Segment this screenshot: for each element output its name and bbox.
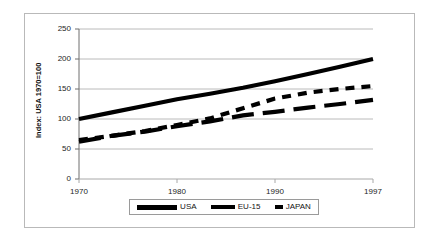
plot-area: 250 200 150 100 50 0 1970 1980 1990 1997 <box>25 14 414 227</box>
x-tick-label-1990: 1990 <box>255 188 295 196</box>
legend-label-usa: USA <box>180 203 196 211</box>
y-tick-marks <box>75 29 79 179</box>
y-tick-label-50: 50 <box>47 145 71 153</box>
x-tick-label-1970: 1970 <box>59 188 99 196</box>
legend-entry-japan[interactable]: JAPAN <box>275 203 311 211</box>
series-line-eu15 <box>79 100 373 142</box>
y-tick-label-200: 200 <box>47 55 71 63</box>
legend-label-eu15: EU-15 <box>238 203 261 211</box>
legend-swatch-usa-icon <box>137 205 177 210</box>
y-tick-label-0: 0 <box>47 175 71 183</box>
legend-entry-eu15[interactable]: EU-15 <box>211 203 261 211</box>
x-tick-label-1980: 1980 <box>157 188 197 196</box>
y-tick-label-250: 250 <box>47 25 71 33</box>
legend-entry-usa[interactable]: USA <box>137 203 196 211</box>
x-tick-marks <box>79 179 373 183</box>
y-tick-label-150: 150 <box>47 85 71 93</box>
legend-swatch-japan-icon <box>275 205 283 209</box>
chart-legend: USA EU-15 JAPAN <box>129 199 319 215</box>
legend-swatch-eu15-icon <box>211 205 235 209</box>
chart-canvas <box>25 14 416 229</box>
chart-figure: Index: USA 1970=100 <box>24 13 415 228</box>
series-line-japan <box>79 86 373 140</box>
x-tick-label-1997: 1997 <box>353 188 393 196</box>
y-tick-label-100: 100 <box>47 115 71 123</box>
legend-label-japan: JAPAN <box>286 203 311 211</box>
